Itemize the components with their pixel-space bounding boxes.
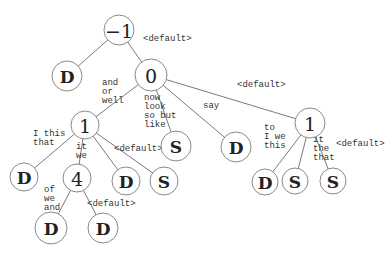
node-label: S: [289, 172, 301, 192]
node-label: −1: [105, 20, 133, 42]
leaf-node-D: D: [10, 163, 38, 191]
node-label: D: [229, 138, 244, 158]
edge-label: say: [203, 101, 220, 111]
node-label: D: [17, 168, 32, 188]
edge-label: ofweand: [44, 185, 60, 213]
leaf-node-S: S: [150, 167, 178, 195]
edge-label: <default>: [237, 80, 286, 90]
node-label: S: [170, 137, 182, 157]
leaf-node-S: S: [161, 131, 191, 161]
edges-layer: [24, 30, 333, 228]
node-label: 1: [304, 113, 316, 135]
leaf-node-D: D: [35, 212, 67, 244]
split-node-0: 0: [135, 59, 167, 91]
leaf-node-D: D: [221, 132, 251, 162]
edge-label: itwe: [76, 142, 87, 161]
leaf-node-S: S: [320, 168, 346, 194]
split-node-4: 4: [63, 164, 91, 192]
leaf-node-D: D: [52, 61, 82, 91]
edge-label: <default>: [143, 34, 192, 44]
node-label: D: [119, 172, 134, 192]
node-label: D: [60, 67, 75, 87]
node-label: 1: [79, 115, 91, 137]
leaf-node-D: D: [88, 213, 118, 243]
node-label: D: [44, 219, 59, 239]
leaf-node-S: S: [282, 168, 308, 194]
edge-label: itthethat: [313, 135, 335, 163]
decision-tree-diagram: <default>andorwellnowlookso butlikesay<d…: [0, 0, 391, 256]
edge-label: <default>: [114, 144, 163, 154]
split-node-1: 1: [295, 108, 325, 138]
edge-label: <default>: [336, 139, 385, 149]
split-node-1: 1: [71, 111, 99, 139]
edge-label: nowlookso butlike: [144, 93, 176, 130]
node-label: D: [96, 219, 111, 239]
split-node-−1: −1: [104, 15, 134, 45]
leaf-node-D: D: [252, 169, 278, 195]
node-label: 0: [145, 65, 157, 87]
edge-label: <default>: [87, 199, 136, 209]
leaf-node-D: D: [112, 167, 140, 195]
node-label: S: [327, 172, 339, 192]
node-label: D: [258, 173, 273, 193]
node-label: 4: [71, 168, 83, 190]
edge-label: toI wethis: [264, 123, 286, 151]
edge-label: andorwell: [102, 78, 124, 106]
edge-label: I thisthat: [33, 129, 65, 148]
node-label: S: [158, 172, 170, 192]
